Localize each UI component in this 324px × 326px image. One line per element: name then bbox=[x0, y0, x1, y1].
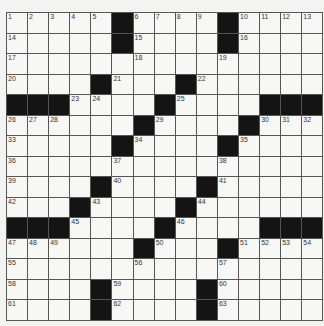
grid-cell[interactable] bbox=[281, 300, 302, 321]
grid-cell[interactable] bbox=[197, 54, 218, 75]
grid-cell[interactable]: 22 bbox=[197, 75, 218, 96]
grid-cell[interactable]: 40 bbox=[112, 177, 133, 198]
grid-cell[interactable] bbox=[49, 34, 70, 55]
grid-cell[interactable] bbox=[134, 280, 155, 301]
grid-cell[interactable]: 13 bbox=[302, 13, 323, 34]
grid-cell[interactable] bbox=[260, 280, 281, 301]
grid-cell[interactable] bbox=[112, 259, 133, 280]
grid-cell[interactable]: 46 bbox=[176, 218, 197, 239]
grid-cell[interactable] bbox=[134, 177, 155, 198]
grid-cell[interactable]: 7 bbox=[155, 13, 176, 34]
grid-cell[interactable]: 1 bbox=[7, 13, 28, 34]
grid-cell[interactable] bbox=[302, 54, 323, 75]
grid-cell[interactable] bbox=[112, 239, 133, 260]
grid-cell[interactable]: 19 bbox=[218, 54, 239, 75]
grid-cell[interactable] bbox=[281, 34, 302, 55]
grid-cell[interactable] bbox=[70, 116, 91, 137]
grid-cell[interactable]: 60 bbox=[218, 280, 239, 301]
grid-cell[interactable] bbox=[155, 34, 176, 55]
grid-cell[interactable]: 26 bbox=[7, 116, 28, 137]
grid-cell[interactable]: 58 bbox=[7, 280, 28, 301]
grid-cell[interactable] bbox=[239, 259, 260, 280]
grid-cell[interactable] bbox=[176, 34, 197, 55]
grid-cell[interactable] bbox=[302, 136, 323, 157]
grid-cell[interactable] bbox=[49, 157, 70, 178]
grid-cell[interactable] bbox=[70, 54, 91, 75]
grid-cell[interactable] bbox=[197, 239, 218, 260]
grid-cell[interactable] bbox=[239, 54, 260, 75]
grid-cell[interactable] bbox=[239, 177, 260, 198]
grid-cell[interactable] bbox=[134, 218, 155, 239]
grid-cell[interactable]: 37 bbox=[112, 157, 133, 178]
grid-cell[interactable]: 16 bbox=[239, 34, 260, 55]
grid-cell[interactable] bbox=[134, 198, 155, 219]
grid-cell[interactable]: 56 bbox=[134, 259, 155, 280]
grid-cell[interactable] bbox=[112, 116, 133, 137]
grid-cell[interactable]: 8 bbox=[176, 13, 197, 34]
grid-cell[interactable] bbox=[260, 177, 281, 198]
grid-cell[interactable] bbox=[281, 259, 302, 280]
grid-cell[interactable]: 44 bbox=[197, 198, 218, 219]
grid-cell[interactable] bbox=[28, 280, 49, 301]
grid-cell[interactable]: 14 bbox=[7, 34, 28, 55]
grid-cell[interactable] bbox=[218, 218, 239, 239]
grid-cell[interactable]: 39 bbox=[7, 177, 28, 198]
grid-cell[interactable]: 23 bbox=[70, 95, 91, 116]
grid-cell[interactable] bbox=[28, 177, 49, 198]
grid-cell[interactable]: 62 bbox=[112, 300, 133, 321]
grid-cell[interactable] bbox=[239, 280, 260, 301]
grid-cell[interactable] bbox=[28, 259, 49, 280]
grid-cell[interactable]: 55 bbox=[7, 259, 28, 280]
grid-cell[interactable] bbox=[218, 198, 239, 219]
grid-cell[interactable]: 43 bbox=[91, 198, 112, 219]
grid-cell[interactable] bbox=[302, 300, 323, 321]
grid-cell[interactable]: 17 bbox=[7, 54, 28, 75]
grid-cell[interactable] bbox=[281, 177, 302, 198]
grid-cell[interactable] bbox=[134, 75, 155, 96]
grid-cell[interactable] bbox=[239, 218, 260, 239]
grid-cell[interactable]: 6 bbox=[134, 13, 155, 34]
grid-cell[interactable] bbox=[281, 54, 302, 75]
grid-cell[interactable] bbox=[155, 198, 176, 219]
grid-cell[interactable]: 25 bbox=[176, 95, 197, 116]
grid-cell[interactable] bbox=[302, 280, 323, 301]
grid-cell[interactable] bbox=[218, 116, 239, 137]
grid-cell[interactable]: 20 bbox=[7, 75, 28, 96]
grid-cell[interactable] bbox=[70, 157, 91, 178]
grid-cell[interactable]: 34 bbox=[134, 136, 155, 157]
grid-cell[interactable]: 27 bbox=[28, 116, 49, 137]
grid-cell[interactable] bbox=[302, 259, 323, 280]
grid-cell[interactable] bbox=[239, 157, 260, 178]
grid-cell[interactable] bbox=[28, 198, 49, 219]
grid-cell[interactable]: 57 bbox=[218, 259, 239, 280]
grid-cell[interactable] bbox=[155, 136, 176, 157]
grid-cell[interactable] bbox=[28, 136, 49, 157]
grid-cell[interactable] bbox=[260, 136, 281, 157]
grid-cell[interactable] bbox=[112, 218, 133, 239]
grid-cell[interactable]: 50 bbox=[155, 239, 176, 260]
grid-cell[interactable]: 33 bbox=[7, 136, 28, 157]
grid-cell[interactable]: 30 bbox=[260, 116, 281, 137]
grid-cell[interactable] bbox=[260, 34, 281, 55]
grid-cell[interactable] bbox=[302, 198, 323, 219]
grid-cell[interactable]: 49 bbox=[49, 239, 70, 260]
grid-cell[interactable] bbox=[176, 177, 197, 198]
grid-cell[interactable] bbox=[260, 54, 281, 75]
grid-cell[interactable] bbox=[302, 34, 323, 55]
grid-cell[interactable] bbox=[49, 136, 70, 157]
grid-cell[interactable] bbox=[260, 300, 281, 321]
grid-cell[interactable] bbox=[70, 34, 91, 55]
grid-cell[interactable] bbox=[239, 300, 260, 321]
grid-cell[interactable]: 42 bbox=[7, 198, 28, 219]
grid-cell[interactable] bbox=[302, 75, 323, 96]
grid-cell[interactable]: 54 bbox=[302, 239, 323, 260]
grid-cell[interactable] bbox=[91, 218, 112, 239]
grid-cell[interactable]: 61 bbox=[7, 300, 28, 321]
grid-cell[interactable]: 29 bbox=[155, 116, 176, 137]
grid-cell[interactable] bbox=[197, 136, 218, 157]
grid-cell[interactable] bbox=[260, 259, 281, 280]
grid-cell[interactable] bbox=[281, 136, 302, 157]
grid-cell[interactable] bbox=[70, 300, 91, 321]
grid-cell[interactable] bbox=[91, 157, 112, 178]
grid-cell[interactable] bbox=[91, 116, 112, 137]
